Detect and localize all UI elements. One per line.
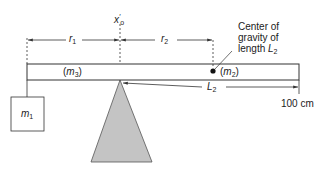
pivot-label-sub: o (120, 19, 124, 26)
pivot-label: x′o (114, 11, 124, 28)
r2-label: r2 (161, 33, 168, 47)
m2-main: m (223, 66, 231, 77)
m2-label: (m2) (220, 66, 239, 80)
m3-close-paren: ) (79, 66, 82, 77)
m1-label: m1 (21, 108, 33, 122)
m1-sub: 1 (29, 113, 33, 120)
center-of-gravity-annotation: Center of gravity of length L2 (238, 21, 279, 57)
m2-close-paren: ) (236, 66, 239, 77)
annotation-line-3: length L2 (238, 43, 279, 57)
fulcrum-triangle (91, 80, 152, 162)
annotation-line-2: gravity of (238, 32, 279, 43)
r1-label: r1 (69, 33, 76, 47)
m3-main: m (66, 66, 74, 77)
annotation-line-1: Center of (238, 21, 279, 32)
L2-sub: 2 (213, 86, 217, 93)
L2-arrow-left (123, 83, 202, 87)
L2-label: L2 (207, 81, 216, 95)
annotation-line-3-prefix: length (238, 43, 268, 54)
r2-sub: 2 (164, 38, 168, 45)
r1-sub: 1 (72, 38, 76, 45)
scale-end-label: 100 cm (281, 98, 314, 109)
annotation-line-3-sub: 2 (274, 48, 278, 55)
center-of-gravity-dot (210, 68, 215, 73)
m3-label: (m3) (63, 66, 82, 80)
